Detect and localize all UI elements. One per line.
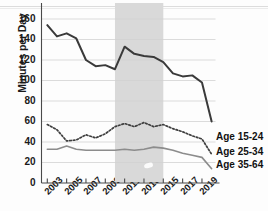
chart-figure: Minutes per Day 020406080100120140160 20… [0, 0, 268, 211]
legend-label-1: Age 15-24 [216, 131, 263, 142]
legend-label-2: Age 25-34 [216, 146, 263, 157]
plot-area [0, 0, 268, 211]
legend-label-3: Age 35-64 [216, 159, 263, 170]
recession-shading [115, 3, 163, 182]
